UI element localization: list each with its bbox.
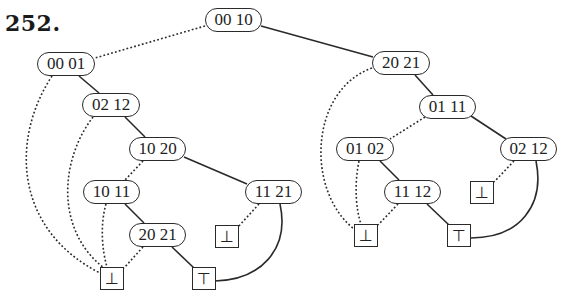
leaf-false-small-left: ⊥ (215, 225, 239, 248)
node-20-21-right: 20 21 (372, 51, 430, 75)
node-10-11: 10 11 (83, 180, 140, 204)
edge-0001-0212 (79, 76, 99, 93)
edge-2021-top (172, 247, 194, 268)
edges-layer (0, 0, 573, 294)
node-01-02: 01 02 (336, 137, 394, 161)
edge-1121-bot (238, 204, 259, 227)
leaf-false-left: ⊥ (100, 267, 124, 290)
edge-1020-1011 (125, 161, 143, 180)
edge-0010-2021r (261, 26, 373, 57)
node-00-10: 00 10 (205, 8, 262, 32)
edge-2021-bot (124, 247, 143, 268)
node-11-12: 11 12 (384, 180, 441, 204)
edge-2021r-0111 (415, 75, 433, 95)
edge-0212r-bot (494, 161, 514, 182)
leaf-false-right: ⊥ (354, 224, 378, 247)
edge-0102-bot (356, 161, 361, 224)
edge-1112-bot (378, 204, 398, 225)
node-00-01: 00 01 (37, 52, 95, 76)
edge-0111-0212r (471, 116, 506, 139)
edge-0212-1020 (125, 117, 145, 137)
edge-1011-bot (102, 204, 107, 267)
node-20-21-left: 20 21 (129, 223, 186, 247)
node-11-21: 11 21 (245, 180, 302, 204)
leaf-false-small-right: ⊥ (470, 181, 494, 204)
node-02-12-right: 02 12 (500, 137, 557, 161)
bdd-diagram: 252. (0, 0, 573, 294)
edge-0010-0001 (95, 26, 205, 58)
node-02-12-left: 02 12 (82, 93, 140, 117)
edge-1020-1121 (184, 157, 247, 184)
edge-1112-top (427, 204, 449, 225)
edge-1011-2021 (125, 204, 144, 223)
edge-0111-0102 (390, 117, 425, 139)
edge-0102-1112 (380, 161, 399, 180)
leaf-true-right: ⊤ (447, 224, 471, 247)
node-01-11: 01 11 (419, 95, 476, 119)
node-10-20: 10 20 (129, 137, 186, 161)
leaf-true-left: ⊤ (192, 267, 216, 290)
